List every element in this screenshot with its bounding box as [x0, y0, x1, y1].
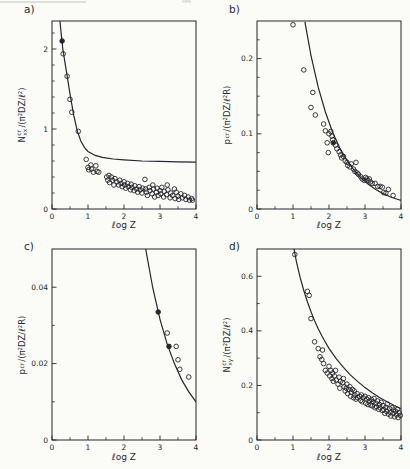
data-point [326, 150, 331, 155]
y-tick-label: 0 [248, 205, 253, 214]
data-point [320, 348, 325, 353]
data-point [176, 358, 181, 363]
fit-curve [305, 22, 401, 201]
x-tick-label: 0 [50, 443, 55, 452]
data-point [84, 157, 89, 162]
data-point [313, 113, 318, 118]
fit-curve [60, 21, 196, 162]
x-axis-label-b: ℓog Z [257, 220, 401, 230]
x-tick-label: 2 [327, 443, 332, 452]
panel-a: a) Ncrxx/(π²DZ/ℓ²) 01234012 ℓog Z [0, 0, 205, 235]
data-point [302, 68, 307, 73]
data-point [143, 177, 148, 182]
data-point [187, 375, 192, 380]
data-point [309, 316, 314, 321]
data-point [156, 310, 161, 315]
data-point [311, 90, 316, 95]
data-point [325, 141, 330, 146]
data-point [354, 160, 359, 165]
y-tick-label: 0.6 [241, 272, 253, 281]
y-tick-label: 0.4 [241, 326, 253, 335]
plot-area-c: 0123400.020.04 [0, 235, 205, 469]
y-tick-label: 0.04 [31, 283, 48, 292]
y-tick-label: 1 [43, 125, 48, 134]
y-tick-label: 0 [43, 436, 48, 445]
x-axis-label-c: ℓog Z [52, 452, 196, 462]
data-point [291, 23, 296, 28]
x-tick-label: 1 [86, 443, 91, 452]
data-point [321, 361, 326, 366]
data-point [178, 367, 183, 372]
data-point [307, 293, 312, 298]
data-point [190, 198, 195, 203]
x-tick-label: 3 [363, 443, 368, 452]
x-tick-label: 4 [194, 443, 199, 452]
data-point [386, 187, 391, 192]
data-point [94, 164, 99, 169]
plot-area-a: 01234012 [0, 0, 205, 235]
data-point [174, 344, 179, 349]
plot-area-b: 0123400.10.2 [205, 0, 410, 235]
data-point [68, 97, 73, 102]
y-tick-label: 0 [43, 205, 48, 214]
x-tick-label: 0 [255, 443, 260, 452]
data-point [167, 344, 172, 349]
data-point [165, 183, 170, 188]
y-tick-label: 0.2 [241, 54, 253, 63]
y-tick-label: 0.1 [241, 129, 253, 138]
x-axis-label-d: ℓog Z [257, 452, 401, 462]
data-point [312, 340, 317, 345]
x-tick-label: 1 [291, 443, 296, 452]
axis-box [257, 21, 401, 209]
y-tick-label: 2 [43, 45, 48, 54]
y-tick-label: 0 [248, 436, 253, 445]
data-point [373, 181, 378, 186]
x-axis-label-a: ℓog Z [52, 220, 196, 230]
data-point [60, 39, 65, 44]
y-tick-label: 0.2 [241, 381, 253, 390]
fit-curve [293, 244, 401, 409]
data-point [165, 331, 170, 336]
x-tick-label: 4 [399, 443, 404, 452]
plot-area-d: 0123400.20.40.6 [205, 235, 410, 469]
data-point [321, 122, 326, 127]
y-tick-label: 0.02 [31, 359, 48, 368]
panel-b: b) pcr/(π²DZ/ℓ²R) 0123400.10.2 ℓog Z [205, 0, 410, 235]
data-point [309, 105, 314, 110]
buckling-figure: a) Ncrxx/(π²DZ/ℓ²) 01234012 ℓog Z b) pcr… [0, 0, 410, 469]
panel-d: d) Ncrxy/(π²DZ/ℓ²) 0123400.20.40.6 ℓog Z [205, 235, 410, 469]
x-tick-label: 3 [158, 443, 163, 452]
panel-c: c) pcr/(π²DZ/ℓ²R) 0123400.020.04 ℓog Z [0, 235, 205, 469]
data-point [333, 368, 338, 373]
x-tick-label: 2 [122, 443, 127, 452]
